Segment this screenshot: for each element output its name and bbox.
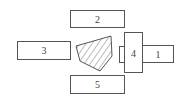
component-2: 2 xyxy=(71,11,125,28)
component-3: 3 xyxy=(18,42,71,60)
component-4: 4 xyxy=(125,33,143,73)
component-5-label: 5 xyxy=(95,79,100,90)
component-1: 1 xyxy=(143,46,174,63)
hatched-workpiece xyxy=(76,36,112,71)
component-4-label: 4 xyxy=(131,48,136,59)
component-3-label: 3 xyxy=(42,45,47,56)
component-1-label: 1 xyxy=(156,49,161,60)
component-5: 5 xyxy=(71,76,125,94)
component-4-tab xyxy=(120,47,125,63)
diagram-canvas: 2 3 1 4 5 xyxy=(0,0,184,100)
component-2-label: 2 xyxy=(95,14,100,25)
